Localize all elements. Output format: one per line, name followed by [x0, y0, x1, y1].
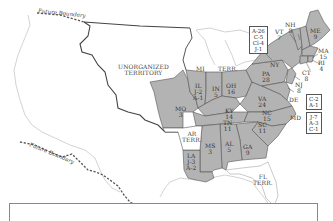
- territory-label-mi: MI: [196, 66, 205, 72]
- territory-label-mi-terr: TERR.: [218, 66, 238, 72]
- state-label-tn: TN11: [223, 120, 232, 132]
- state-label-oh: OH16: [226, 83, 236, 95]
- state-label-sc: SC11: [258, 122, 267, 134]
- territory-label-ar: AR TERR.: [182, 131, 202, 143]
- legend-box: [9, 203, 318, 221]
- state-ct: [300, 56, 308, 64]
- state-label-la: LAJ-3A-2: [186, 153, 196, 171]
- state-label-nh: NH8: [285, 22, 296, 34]
- states-group: [150, 10, 330, 182]
- split-box-md: J-7 A-3 C-1: [306, 112, 322, 134]
- state-label-ms: MS3: [205, 143, 215, 155]
- territory-label-fl: FL TERR.: [253, 174, 273, 186]
- state-label-md: MD: [290, 115, 301, 121]
- state-label-de: DE: [289, 97, 298, 103]
- territory-label-unorganized: UNORGANIZED TERRITORY: [118, 64, 169, 76]
- state-label-il: ILJ-2A-1: [193, 83, 203, 101]
- state-label-in: IN5: [212, 86, 220, 98]
- state-label-al: AL5: [225, 141, 234, 153]
- state-ri: [308, 56, 314, 62]
- state-label-ga: GA9: [243, 144, 252, 156]
- west-coast-outline: [14, 15, 120, 192]
- mi-terr-west-border: [183, 28, 192, 70]
- state-label-pa: PA28: [262, 71, 270, 83]
- state-label-mo: MO3: [175, 106, 186, 118]
- state-label-ny: NY: [270, 62, 279, 68]
- state-label-nj: NJ8: [295, 82, 303, 94]
- split-box-de: C-2 A-1: [306, 94, 322, 110]
- state-label-ct: CT8: [302, 70, 311, 82]
- state-label-ri: RI4: [318, 60, 325, 72]
- state-label-va: VA24: [258, 96, 266, 108]
- northern-border: [84, 22, 190, 28]
- state-label-me: ME9: [310, 28, 321, 40]
- state-label-vt: VT7: [275, 29, 284, 41]
- split-box-ny: A-26 C-5 Cl-4 J-1: [249, 26, 268, 54]
- great-lakes-outline: [196, 28, 255, 66]
- state-label-ky: KY14: [225, 108, 233, 120]
